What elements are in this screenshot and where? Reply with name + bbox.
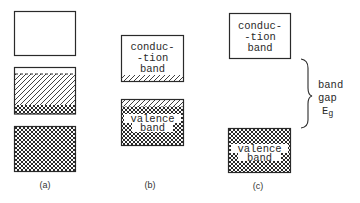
valence-band: valence band bbox=[229, 129, 291, 173]
conduction-label-line3: band bbox=[247, 42, 272, 54]
band-gap-label: band gap Eg bbox=[318, 79, 343, 119]
panel-a: (a) bbox=[15, 12, 76, 191]
brace-icon bbox=[301, 59, 312, 128]
empty-band bbox=[15, 12, 76, 56]
gap-label-line3: Eg bbox=[322, 105, 333, 119]
gap-label-line1: band bbox=[318, 79, 343, 91]
panel-c: conduc- -tion band valence band band gap… bbox=[229, 14, 344, 192]
valence-label-line2: band bbox=[140, 122, 165, 134]
valence-label-line2: band bbox=[247, 152, 272, 164]
conduction-band: conduc- -tion band bbox=[122, 36, 184, 82]
partial-band bbox=[15, 68, 76, 115]
conduction-label-line3: band bbox=[140, 63, 165, 75]
caption-b: (b) bbox=[145, 180, 156, 190]
panel-b: conduc- -tion band valence band (b) bbox=[122, 36, 184, 191]
gap-label-line2: gap bbox=[318, 92, 337, 104]
valence-band: valence band bbox=[122, 100, 184, 146]
band-diagram: (a) conduc- -tion band valence band (b) … bbox=[0, 0, 360, 203]
caption-c: (c) bbox=[253, 181, 264, 191]
caption-a: (a) bbox=[40, 180, 51, 190]
conduction-band: conduc- -tion band bbox=[230, 14, 291, 59]
filled-band bbox=[15, 127, 76, 172]
